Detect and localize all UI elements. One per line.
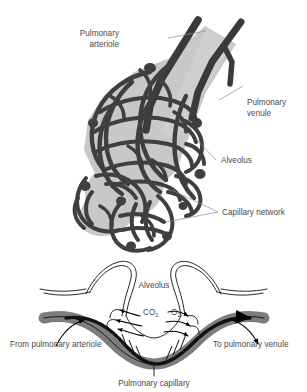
label-alveolus-upper: Alveolus (221, 156, 252, 165)
label-to-pulmonary-venule: To pulmonary venule (213, 340, 289, 349)
label-alveolus-lower: Alveolus (139, 281, 170, 290)
label-pulmonary-arteriole-line1: Pulmonary (80, 29, 120, 38)
label-pulmonary-arteriole-line2: arteriole (89, 40, 119, 49)
co2-symbol: CO (143, 308, 155, 317)
label-capillary-network: Capillary network (222, 208, 286, 217)
label-pulmonary-venule-line2: venule (247, 109, 272, 118)
label-from-pulmonary-arteriole: From pulmonary arteriole (10, 340, 102, 349)
label-pulmonary-capillary: Pulmonary capillary (118, 379, 190, 388)
anatomy-figure: Pulmonary arteriole Pulmonary venule Alv… (0, 0, 307, 392)
label-pulmonary-venule-line1: Pulmonary (247, 98, 287, 107)
co2-subscript: 2 (155, 312, 158, 318)
o2-subscript: 2 (177, 312, 180, 318)
